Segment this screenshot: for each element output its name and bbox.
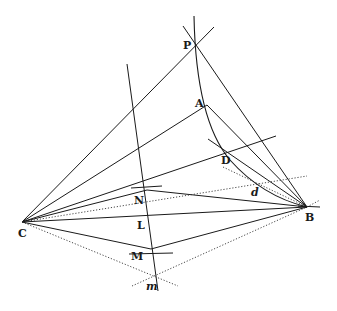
line-C-B: [22, 207, 307, 222]
point-label-d: d: [251, 186, 259, 199]
line-P-B: [183, 26, 307, 207]
point-label-D: D: [221, 154, 231, 167]
point-label-M: M: [131, 250, 143, 263]
dotted-C-d: [22, 176, 307, 222]
dotted-D-B: [223, 167, 307, 207]
point-label-N: N: [134, 194, 144, 207]
point-label-L: L: [137, 219, 145, 232]
line-C-D-extended: [22, 136, 276, 222]
line-M-B: [151, 207, 307, 249]
line-C-A: [22, 105, 207, 222]
arc-through-P-A-D-B: [194, 16, 307, 207]
dotted-C-m: [22, 222, 178, 286]
geometric-diagram: PADdBCNLMm: [0, 0, 337, 311]
tick-N: [131, 186, 162, 188]
point-label-P: P: [183, 39, 191, 52]
point-label-B: B: [305, 211, 314, 224]
point-label-m: m: [146, 280, 158, 293]
construction-arcs: [194, 16, 307, 207]
dotted-B-extension: [307, 200, 320, 207]
line-C-M: [22, 222, 151, 249]
point-labels: PADdBCNLMm: [18, 39, 314, 293]
line-C-N: [22, 190, 147, 222]
point-label-A: A: [194, 97, 204, 110]
dotted-m-B: [132, 207, 307, 286]
solid-lines: [22, 26, 320, 291]
line-C-P: [22, 27, 214, 222]
point-label-C: C: [18, 227, 27, 240]
